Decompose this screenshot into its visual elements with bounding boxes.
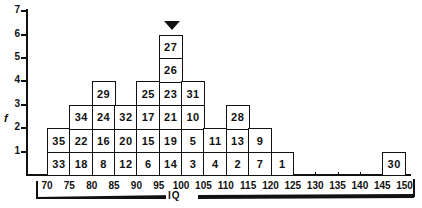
x-axis-wedge-bar [36,191,414,201]
case-cell: 9 [248,128,272,153]
case-cell: 29 [92,81,116,106]
case-cell: 15 [136,128,160,153]
x-axis-label: IQ [166,190,183,201]
case-cell: 18 [69,152,93,177]
case-cell: 25 [136,81,160,106]
case-cell: 7 [248,152,272,177]
case-cell: 2 [226,152,250,177]
case-cell: 32 [114,105,138,130]
case-cell: 30 [382,152,406,177]
case-cell: 13 [226,128,250,153]
empty-bin-tick [315,172,316,175]
y-tick-label: 2 [8,121,20,132]
case-cell: 35 [47,128,71,153]
y-tick-mark [21,80,27,82]
y-tick-mark [21,104,27,106]
case-cell: 24 [92,105,116,130]
case-cell: 14 [159,152,183,177]
empty-bin-tick [338,172,339,175]
y-tick-label: 5 [8,51,20,62]
case-cell: 4 [203,152,227,177]
y-tick-mark [21,127,27,129]
case-cell: 19 [159,128,183,153]
case-cell: 28 [226,105,250,130]
case-cell: 26 [159,58,183,83]
y-tick-mark [21,34,27,36]
y-tick-mark [21,10,27,12]
case-cell: 6 [136,152,160,177]
case-cell: 34 [69,105,93,130]
case-cell: 3 [181,152,205,177]
case-cell: 10 [181,105,205,130]
case-cell: 17 [136,105,160,130]
case-cell: 5 [181,128,205,153]
case-cell: 23 [159,81,183,106]
case-cell: 33 [47,152,71,177]
mode-marker-triangle-icon [164,21,180,30]
case-cell: 12 [114,152,138,177]
y-tick-label: 3 [8,98,20,109]
empty-bin-tick [360,172,361,175]
case-cell: 1 [271,152,295,177]
case-cell: 27 [159,35,183,60]
y-tick-label: 1 [8,145,20,156]
y-tick-mark [21,151,27,153]
case-cell: 31 [181,81,205,106]
case-cell: 20 [114,128,138,153]
y-tick-label: 6 [8,28,20,39]
case-cell: 21 [159,105,183,130]
case-cell: 16 [92,128,116,153]
y-tick-label: 4 [8,74,20,85]
y-tick-label: 7 [8,4,20,15]
case-cell: 22 [69,128,93,153]
case-cell: 8 [92,152,116,177]
y-tick-mark [21,57,27,59]
x-tick-label: 150 [390,180,420,191]
iq-histogram-chart: f 1234567 333518223481624291220326151725… [0,0,422,208]
case-cell: 11 [203,128,227,153]
